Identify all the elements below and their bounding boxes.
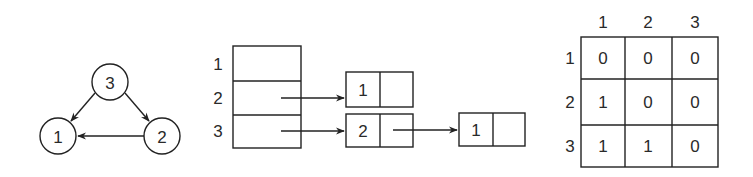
matrix-cell: 1 [598,137,607,156]
matrix-cell: 0 [643,49,652,68]
edge-3-to-1 [71,93,95,121]
matrix-cell: 0 [598,49,607,68]
graph-node-3: 3 [92,64,128,100]
graph-node-label: 2 [157,128,166,147]
matrix-row-header: 2 [565,93,574,112]
list-node-value: 1 [358,81,367,100]
head-array [233,46,301,148]
diagram-canvas: 3 1 2 1 2 3 1 2 [0,0,753,177]
list-node: 1 [346,72,413,107]
graph-node-label: 1 [53,128,62,147]
matrix-cell: 0 [643,93,652,112]
list-row-label-2: 2 [213,89,222,108]
matrix-col-header: 2 [643,13,652,32]
list-node: 1 [459,113,525,146]
graph-node-1: 1 [40,118,76,154]
matrix-cell: 0 [690,93,699,112]
adjacency-matrix: 1 2 3 1 2 3 0 0 0 1 0 0 1 1 0 [565,13,718,168]
matrix-row-header: 1 [565,49,574,68]
list-row-label-3: 3 [213,122,222,141]
graph-node-label: 3 [105,74,114,93]
list-node-value: 1 [471,121,480,140]
matrix-col-header: 1 [598,13,607,32]
list-node-value: 2 [358,122,367,141]
matrix-cell: 0 [690,49,699,68]
matrix-cell: 0 [690,137,699,156]
matrix-row-header: 3 [565,137,574,156]
graph-node-2: 2 [144,118,180,154]
matrix-cell: 1 [643,137,652,156]
directed-graph: 3 1 2 [40,64,180,154]
matrix-cell: 1 [598,93,607,112]
matrix-col-header: 3 [690,13,699,32]
adjacency-list: 1 2 3 1 2 1 [213,46,525,148]
list-row-label-1: 1 [213,55,222,74]
edge-3-to-2 [125,93,149,121]
